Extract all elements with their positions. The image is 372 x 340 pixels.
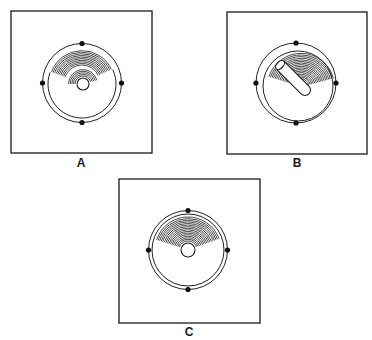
panel-a-alignment-dot-left [40, 80, 45, 85]
panel-b-label: B [293, 156, 302, 170]
panel-c-alignment-dot-bottom [185, 287, 190, 292]
panel-b-alignment-dot-right [333, 80, 338, 85]
panel-b-alignment-dot-bottom [293, 120, 298, 125]
panel-a-label: A [77, 156, 86, 170]
panel-c-label: C [185, 325, 194, 339]
panel-c-alignment-dot-left [146, 247, 151, 252]
panel-b: B [227, 12, 367, 170]
panel-c-alignment-dot-right [225, 247, 230, 252]
panel-c-central-hole [181, 243, 195, 257]
panel-a: A [11, 11, 152, 170]
panel-a-central-hole [77, 78, 89, 90]
panel-a-alignment-dot-top [79, 41, 84, 46]
diagram-figure: A B C [0, 0, 372, 340]
panel-a-alignment-dot-right [119, 80, 124, 85]
panel-c-alignment-dot-top [185, 208, 190, 213]
panel-b-alignment-dot-left [253, 80, 258, 85]
panel-a-alignment-dot-bottom [79, 120, 84, 125]
panel-c: C [119, 179, 260, 339]
panel-b-alignment-dot-top [293, 40, 298, 45]
